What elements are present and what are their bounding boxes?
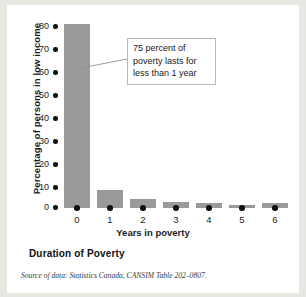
y-tick-dot-40 xyxy=(53,116,58,121)
x-tick-dot-4 xyxy=(206,205,212,211)
bar-0[interactable] xyxy=(64,24,90,208)
annotation-line-1: 75 percent of xyxy=(133,42,211,55)
x-axis-title: Years in poverty xyxy=(53,227,253,238)
x-tick-dot-6 xyxy=(272,205,278,211)
x-tick-label-4: 4 xyxy=(194,214,224,225)
figure-panel: Percentage of persons in low income 80 7… xyxy=(7,5,299,293)
y-tick-label-20: 20 xyxy=(27,160,49,169)
annotation-line-2: poverty lasts for xyxy=(133,55,211,68)
annotation-leader-line xyxy=(81,57,127,69)
figure-source-note: Source of data: Statistics Canada, CANSI… xyxy=(21,271,207,280)
y-tick-dot-50 xyxy=(53,93,58,98)
y-tick-label-0: 0 xyxy=(27,203,49,212)
figure-caption: Duration of Poverty xyxy=(29,248,125,259)
y-tick-label-30: 30 xyxy=(27,137,49,146)
x-tick-label-6: 6 xyxy=(260,214,290,225)
y-tick-label-60: 60 xyxy=(27,68,49,77)
x-tick-label-2: 2 xyxy=(128,214,158,225)
annotation-line-3: less than 1 year xyxy=(133,67,211,80)
x-tick-dot-3 xyxy=(173,205,179,211)
y-tick-dot-80 xyxy=(53,24,58,29)
y-tick-dot-10 xyxy=(53,185,58,190)
y-tick-dot-0 xyxy=(53,205,58,210)
y-axis-title: Percentage of persons in low income xyxy=(31,14,42,204)
x-tick-label-3: 3 xyxy=(161,214,191,225)
figure-root: Percentage of persons in low income 80 7… xyxy=(0,0,306,297)
x-tick-dot-1 xyxy=(107,205,113,211)
y-tick-label-50: 50 xyxy=(27,91,49,100)
x-tick-dot-5 xyxy=(239,205,245,211)
y-tick-label-70: 70 xyxy=(27,45,49,54)
x-tick-dot-2 xyxy=(140,205,146,211)
x-tick-label-5: 5 xyxy=(227,214,257,225)
x-tick-label-0: 0 xyxy=(62,214,92,225)
y-tick-dot-30 xyxy=(53,139,58,144)
y-tick-dot-70 xyxy=(53,47,58,52)
y-tick-dot-20 xyxy=(53,162,58,167)
y-tick-label-80: 80 xyxy=(27,22,49,31)
x-tick-dot-0 xyxy=(74,205,80,211)
y-tick-dot-60 xyxy=(53,70,58,75)
y-tick-label-10: 10 xyxy=(27,183,49,192)
annotation-callout: 75 percent of poverty lasts for less tha… xyxy=(127,38,216,85)
y-tick-label-40: 40 xyxy=(27,114,49,123)
x-tick-label-1: 1 xyxy=(95,214,125,225)
